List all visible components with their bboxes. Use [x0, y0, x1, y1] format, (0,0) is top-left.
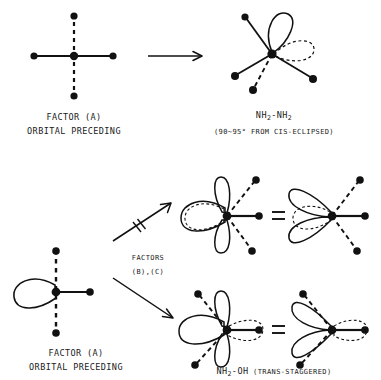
- atom-dot-right: [255, 212, 263, 220]
- top-reactant-label-line2: ORBITAL PRECEDING: [27, 126, 121, 136]
- bottom-left-lobe-structure: [14, 247, 94, 337]
- solid-orbital-lobe-upper-left: [289, 189, 331, 217]
- dashed-bond-lower-left: [197, 330, 227, 363]
- center-atom-dot: [328, 326, 337, 335]
- center-atom-dot: [223, 326, 232, 335]
- atom-dot-right: [361, 326, 369, 334]
- lower-branch-arrow: [113, 278, 173, 318]
- solid-orbital-lobe-upper-left: [292, 302, 331, 330]
- formula-part-nh: NH: [216, 366, 227, 376]
- center-atom-dot: [70, 52, 78, 60]
- solid-orbital-lobe-left: [14, 279, 56, 308]
- formula-subscript-2: 2: [288, 114, 292, 122]
- solid-orbital-lobe-left: [179, 315, 224, 344]
- dashed-bond-lower-right: [332, 216, 356, 249]
- diagram-canvas: FACTOR (A) ORBITAL PRECEDING NH2-NH2 (90…: [0, 0, 381, 380]
- branch-label-line1: FACTORS: [132, 254, 164, 262]
- solid-orbital-lobe-lower-left: [292, 330, 331, 358]
- left-atom-dot: [30, 52, 37, 59]
- atom-dot-right: [361, 212, 369, 220]
- top-atom-dot: [70, 12, 77, 19]
- top-reactant-label-line1: FACTOR (A): [46, 112, 101, 122]
- arrow-shaft: [113, 203, 171, 241]
- bottom-product-note-text: (TRANS-STAGGERED): [253, 368, 331, 376]
- nh2-nh2-structure: [231, 13, 317, 94]
- dashed-bond-upper-right: [332, 182, 358, 216]
- center-atom-dot: [328, 212, 337, 221]
- top-atom-dot: [52, 247, 60, 255]
- dashed-bond-upper-left: [200, 296, 227, 330]
- top-product-note: (90~95° FROM CIS-ECLIPSED): [214, 128, 334, 136]
- bond-lower-right: [272, 54, 312, 78]
- top-reaction-arrow: [148, 52, 202, 61]
- formula-part-nh2: -NH: [271, 110, 288, 120]
- upper-product-equivalent-structure: [289, 176, 369, 255]
- center-atom-dot: [52, 288, 61, 297]
- bottom-product-label: NH2-OH (TRANS-STAGGERED): [216, 366, 331, 378]
- formula-part-nh: NH: [256, 110, 267, 120]
- formula-part-oh: -OH: [232, 366, 249, 376]
- equals-sign-lower: [272, 326, 285, 333]
- equals-sign-upper: [272, 212, 285, 219]
- atom-dot-upper-left: [194, 290, 202, 298]
- top-left-cross-structure: [30, 12, 116, 99]
- atom-dot-lower-right: [353, 247, 361, 255]
- upper-product-structure: [181, 176, 263, 255]
- right-atom-dot: [109, 52, 116, 59]
- atom-dot-lower-right: [248, 247, 256, 255]
- solid-orbital-lobe-lower-left: [289, 217, 331, 243]
- bottom-reactant-label-line2: ORBITAL PRECEDING: [29, 362, 123, 372]
- top-product-formula: NH2-NH2: [256, 110, 292, 122]
- center-atom-dot: [223, 212, 232, 221]
- bottom-product-note: (TRANS-STAGGERED): [248, 368, 331, 376]
- bottom-atom-dot: [70, 92, 77, 99]
- atom-dot-lower-left: [191, 361, 199, 369]
- atom-dot-lower-right: [309, 75, 317, 83]
- lower-product-equivalent-structure: [292, 290, 369, 369]
- solid-orbital-lobe-down: [215, 220, 230, 253]
- bottom-atom-dot: [52, 329, 60, 337]
- arrow-shaft: [113, 278, 173, 318]
- atom-dot-lower-left: [231, 72, 239, 80]
- atom-dot-upper-right: [356, 176, 364, 184]
- branch-label-line2: (B),(C): [132, 268, 164, 276]
- atom-dot-dashed-down: [249, 86, 257, 94]
- solid-orbital-lobe-up: [269, 13, 293, 53]
- lower-product-structure: [179, 290, 263, 369]
- orbital-diagram-svg: [0, 0, 381, 380]
- atom-dot-upper-right: [252, 176, 260, 184]
- atom-dot-upper-left: [241, 13, 248, 20]
- atom-dot-upper-left: [299, 290, 307, 298]
- center-atom-dot: [267, 49, 276, 58]
- upper-branch-crossed-arrow: [113, 203, 171, 241]
- right-atom-dot: [86, 288, 94, 296]
- bottom-reactant-label-line1: FACTOR (A): [48, 348, 103, 358]
- dashed-bond-lower-right: [227, 216, 251, 249]
- atom-dot-right: [255, 326, 263, 334]
- dashed-bond-upper-right: [227, 182, 254, 216]
- arrow-head: [163, 309, 174, 318]
